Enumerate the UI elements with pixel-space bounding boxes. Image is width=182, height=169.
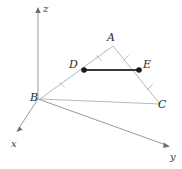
- y-axis-line: [38, 99, 166, 145]
- axes-group: [16, 7, 170, 148]
- point-d-dot: [81, 67, 87, 73]
- point-e-dot: [136, 67, 142, 73]
- triangle-side-bc: [40, 99, 160, 104]
- triangle-side-ab: [40, 46, 113, 99]
- midsegment-group: [81, 67, 142, 73]
- axis-label-z: z: [43, 4, 48, 14]
- point-label-d: D: [69, 59, 78, 70]
- x-axis-arrowhead: [16, 127, 22, 132]
- triangle-sides-group: [40, 46, 160, 104]
- point-label-c: C: [158, 99, 166, 110]
- geometry-figure: A B C D E z x y: [0, 0, 182, 169]
- z-axis-arrowhead: [35, 7, 40, 13]
- point-label-b: B: [30, 92, 38, 103]
- axis-label-y: y: [170, 152, 176, 162]
- geometry-canvas: [0, 0, 182, 169]
- point-label-e: E: [143, 59, 151, 70]
- point-label-a: A: [107, 32, 115, 43]
- triangle-side-ac: [113, 46, 160, 104]
- y-axis-arrowhead: [163, 143, 170, 148]
- tick-ec-icon: [147, 84, 152, 89]
- tick-ae-icon: [123, 55, 128, 60]
- axis-label-x: x: [11, 139, 17, 149]
